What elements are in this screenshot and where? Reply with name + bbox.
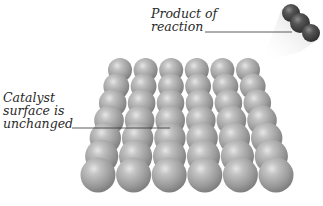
catalyst-atom [116, 158, 151, 193]
catalyst-label-line-3: unchanged [3, 117, 73, 130]
catalyst-atom [81, 158, 116, 193]
catalyst-label: Catalyst surface is unchanged [3, 91, 73, 130]
catalyst-atom [223, 158, 258, 193]
catalyst-atom [187, 158, 222, 193]
catalyst-atom [152, 158, 187, 193]
product-label-line-2: reaction [151, 20, 217, 33]
product-label: Product of reaction [151, 7, 217, 33]
catalyst-surface [81, 58, 294, 193]
catalyst-atom [259, 158, 294, 193]
